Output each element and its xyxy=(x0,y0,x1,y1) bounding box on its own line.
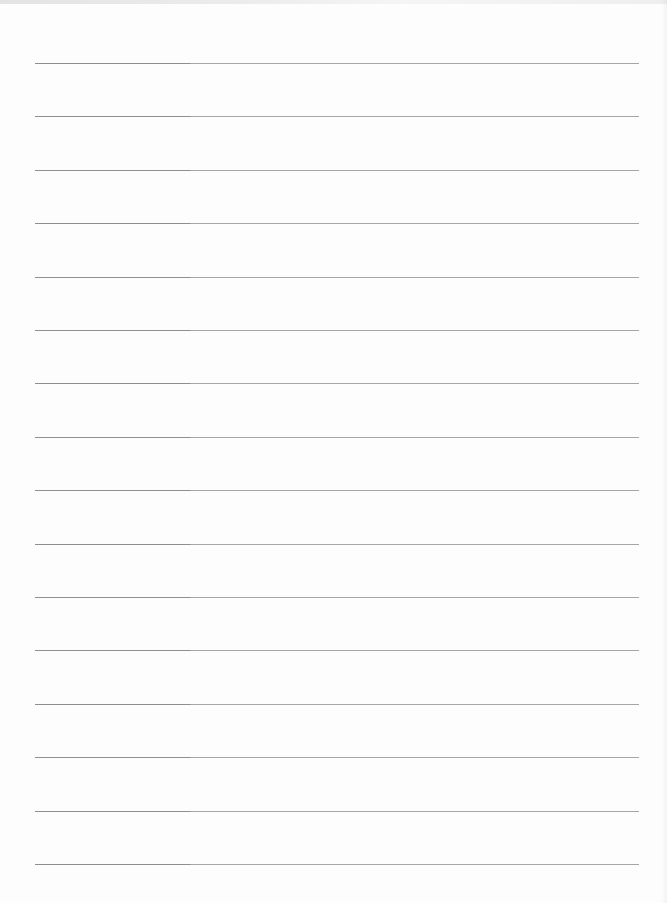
ruled-line xyxy=(35,277,639,278)
ruled-line xyxy=(35,597,639,598)
ruled-line xyxy=(35,811,639,812)
ruled-line xyxy=(35,704,639,705)
ruled-line xyxy=(35,116,639,117)
ruled-line xyxy=(35,650,639,651)
ruled-line xyxy=(35,437,639,438)
ruled-line xyxy=(35,544,639,545)
ruled-line xyxy=(35,757,639,758)
ruled-line xyxy=(35,490,639,491)
scan-right-edge xyxy=(661,0,667,903)
ruled-line xyxy=(35,170,639,171)
ruled-line xyxy=(35,383,639,384)
ruled-line xyxy=(35,330,639,331)
ruled-line xyxy=(35,864,639,865)
scan-top-edge xyxy=(0,0,667,4)
ruled-line xyxy=(35,63,639,64)
ruled-line xyxy=(35,223,639,224)
